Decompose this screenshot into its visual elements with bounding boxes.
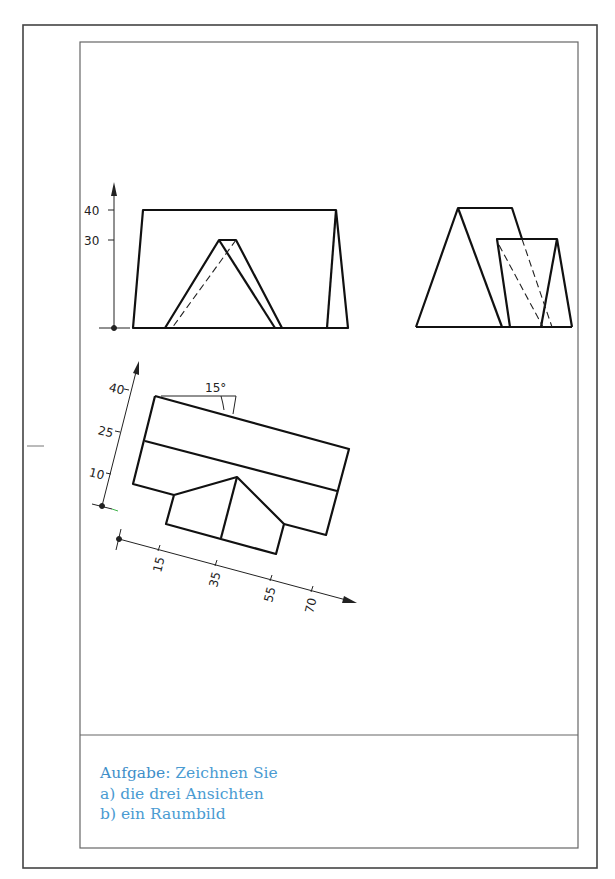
oblique-x-label-15: 15 [150, 556, 167, 574]
outer-border [23, 25, 597, 868]
oblique-outline [133, 396, 349, 554]
task-keyword: Aufgabe [100, 764, 165, 782]
technical-drawing-sheet: 40 30 [0, 0, 615, 879]
task-heading: Aufgabe: Zeichnen Sie [100, 763, 560, 784]
front-view: 40 30 [84, 182, 348, 331]
oblique-x-label-55: 55 [261, 586, 278, 604]
front-hidden-line [172, 240, 236, 328]
side-hidden-line-1 [522, 239, 552, 327]
oblique-y-label-10: 10 [88, 465, 106, 482]
side-hidden-line-2 [499, 245, 543, 327]
task-item-b: b) ein Raumbild [100, 804, 560, 825]
task-item-a: a) die drei Ansichten [100, 784, 560, 805]
task-text: Aufgabe: Zeichnen Sie a) die drei Ansich… [100, 763, 560, 825]
front-dimension-axis [99, 182, 130, 331]
angle-annotation [161, 396, 236, 414]
oblique-x-label-70: 70 [302, 597, 319, 615]
oblique-y-label-40: 40 [108, 380, 126, 397]
front-axis-label-30: 30 [84, 234, 99, 248]
front-axis-label-40: 40 [84, 204, 99, 218]
side-view [416, 208, 572, 327]
inner-border [80, 42, 578, 848]
oblique-y-label-25: 25 [97, 423, 115, 440]
angle-label: 15° [205, 381, 226, 395]
front-outline [133, 210, 348, 328]
task-instruction: Zeichnen Sie [170, 764, 277, 782]
oblique-x-label-35: 35 [206, 571, 223, 589]
oblique-top-view: 40 25 10 15 35 55 70 15° [88, 361, 357, 615]
